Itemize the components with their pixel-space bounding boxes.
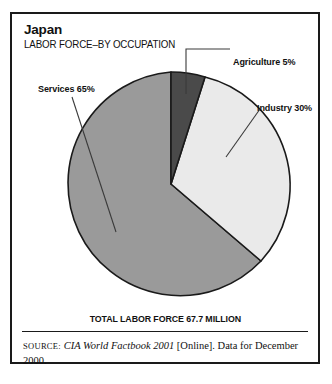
slice-label-agriculture: Agriculture 5% <box>233 56 295 67</box>
footer-divider <box>22 331 308 332</box>
source-note: SOURCE: CIA World Factbook 2001 [Online]… <box>23 339 311 367</box>
figure-frame: Japan LABOR FORCE–BY OCCUPATION Agricult… <box>10 12 320 364</box>
source-label: SOURCE: <box>23 341 61 351</box>
pie-chart-area: Agriculture 5% Industry 30% Services 65% <box>12 14 318 324</box>
total-labor-force-caption: TOTAL LABOR FORCE 67.7 MILLION <box>12 313 318 324</box>
total-labor-force-text: TOTAL LABOR FORCE 67.7 MILLION <box>89 313 240 324</box>
slice-label-services: Services 65% <box>38 83 95 94</box>
slice-label-industry: Industry 30% <box>257 102 312 113</box>
source-work-title: CIA World Factbook 2001 <box>64 340 175 351</box>
